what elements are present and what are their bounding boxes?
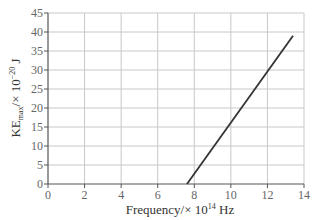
y-tick-label: 40 bbox=[31, 25, 43, 39]
x-tick-label: 4 bbox=[118, 188, 124, 202]
x-tick-label: 12 bbox=[261, 188, 273, 202]
y-tick-label: 5 bbox=[37, 158, 43, 172]
chart: 02468101214 051015202530354045 Frequency… bbox=[0, 0, 313, 220]
y-tick-label: 45 bbox=[31, 6, 43, 20]
x-tick-label: 10 bbox=[225, 188, 237, 202]
x-tick-label: 0 bbox=[45, 188, 51, 202]
x-tick-label: 6 bbox=[155, 188, 161, 202]
data-series bbox=[187, 36, 293, 184]
x-axis-label: Frequency/× 1014 Hz bbox=[126, 202, 235, 217]
y-axis-label: KEmax/× 10−20 J bbox=[8, 58, 25, 137]
y-tick-label: 15 bbox=[31, 120, 43, 134]
y-tick-label: 35 bbox=[31, 44, 43, 58]
y-tick-label: 20 bbox=[31, 101, 43, 115]
y-tick-labels: 051015202530354045 bbox=[31, 6, 43, 191]
data-line bbox=[187, 36, 293, 184]
y-tick-label: 25 bbox=[31, 82, 43, 96]
x-tick-label: 8 bbox=[191, 188, 197, 202]
x-tick-label: 2 bbox=[82, 188, 88, 202]
y-tick-label: 10 bbox=[31, 139, 43, 153]
y-tick-label: 0 bbox=[37, 177, 43, 191]
x-tick-label: 14 bbox=[298, 188, 310, 202]
x-tick-labels: 02468101214 bbox=[45, 188, 310, 202]
grid-lines bbox=[48, 13, 304, 184]
axes bbox=[44, 13, 304, 188]
y-tick-label: 30 bbox=[31, 63, 43, 77]
